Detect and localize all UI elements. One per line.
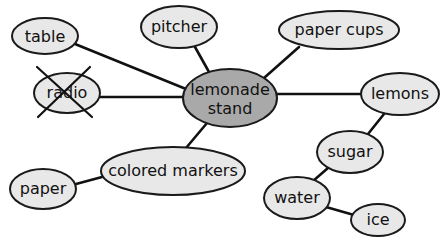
node-label: pitcher [151,17,208,36]
node-label: paper cups [294,20,383,39]
node-sugar: sugar [317,131,383,173]
node-label: water [274,188,320,207]
node-label: paper [20,179,67,198]
edge-colored-markers-paper [76,177,102,184]
concept-map: table pitcher paper cups radio lemons su… [0,0,446,242]
node-table: table [12,18,78,54]
node-label: sugar [327,142,372,161]
edge-lemons-sugar [368,114,384,134]
node-pitcher: pitcher [141,6,217,48]
edge-water-ice [326,207,354,215]
edge-sugar-water [313,168,328,181]
node-label: table [25,27,66,46]
node-label: radio [47,83,88,102]
node-label: colored markers [108,161,238,180]
center-label-line1: lemonade [190,80,270,99]
node-paper: paper [10,169,76,209]
node-lemons: lemons [361,73,439,115]
node-water: water [264,177,330,219]
node-label: lemons [371,84,429,103]
node-colored-markers: colored markers [101,147,245,195]
node-paper-cups: paper cups [279,11,399,49]
center-label-line2: stand [208,99,253,118]
edge-stand-paper-cups [264,47,299,78]
node-radio: radio [34,67,100,117]
node-lemonade-stand: lemonade stand [183,69,277,127]
node-ice: ice [351,204,405,236]
edge-stand-pitcher [195,47,209,72]
edge-stand-colored-markers [186,123,207,148]
node-label: ice [366,210,389,229]
